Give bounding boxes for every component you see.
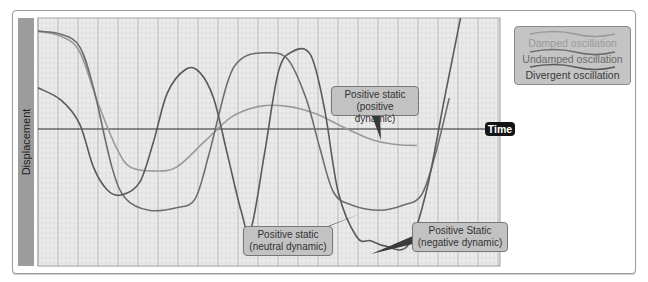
legend-item-divergent: Divergent oscillation [515, 69, 630, 81]
callout-positive-line1: Positive static [336, 89, 414, 101]
legend-swatch-damped [530, 32, 615, 37]
legend-item-undamped: Undamped oscillation [515, 53, 630, 65]
callout-positive-dynamic: Positive static (positive dynamic) [331, 86, 419, 116]
callout-negative-line1: Positive Static [417, 225, 503, 237]
legend-item-damped: Damped oscillation [515, 37, 630, 49]
callout-negative-line2: (negative dynamic) [417, 237, 503, 249]
legend: Damped oscillation Undamped oscillation … [514, 26, 631, 85]
callout-neutral-dynamic: Positive static (neutral dynamic) [243, 226, 333, 256]
callout-negative-dynamic: Positive Static (negative dynamic) [412, 222, 508, 252]
callout-neutral-line2: (neutral dynamic) [248, 241, 328, 253]
time-axis-label: Time [485, 122, 515, 136]
callout-neutral-line1: Positive static [248, 229, 328, 241]
callout-positive-line2: (positive dynamic) [336, 101, 414, 125]
